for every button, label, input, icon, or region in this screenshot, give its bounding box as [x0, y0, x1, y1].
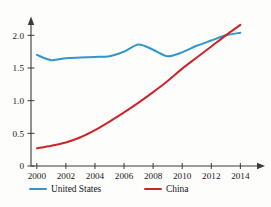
y-tick-label: 2.0: [13, 31, 25, 41]
y-tick-label: 1.0: [13, 96, 25, 106]
x-tick-label: 2008: [144, 171, 163, 181]
series-group: [37, 25, 241, 148]
line-chart: 00.51.01.52.0 20002002200420062008201020…: [0, 0, 271, 207]
y-tick-label: 1.5: [13, 63, 25, 73]
x-tick-label: 2000: [28, 171, 47, 181]
chart-legend: United StatesChina: [30, 184, 189, 194]
x-tick-label: 2002: [57, 171, 76, 181]
x-tick-label: 2006: [115, 171, 134, 181]
x-tick-label: 2014: [231, 171, 250, 181]
legend-label-china: China: [166, 184, 189, 194]
x-tick-label: 2010: [173, 171, 192, 181]
x-axis-arrow: [257, 163, 265, 169]
axis-group: [28, 17, 265, 170]
y-tick-label: 0.5: [13, 129, 25, 139]
x-tick-label: 2012: [202, 171, 221, 181]
y-axis-arrow: [28, 17, 34, 26]
series-line-china: [37, 25, 241, 148]
chart-canvas: 00.51.01.52.0 20002002200420062008201020…: [0, 0, 271, 207]
y-tick-label: 0: [19, 161, 24, 171]
legend-label-united-states: United States: [51, 184, 102, 194]
x-tick-label: 2004: [86, 171, 105, 181]
